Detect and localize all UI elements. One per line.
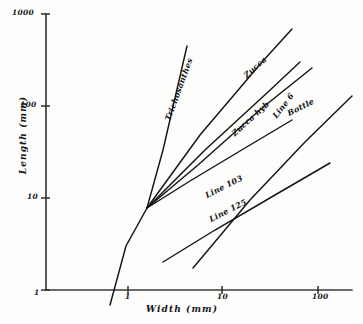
line-line125 <box>163 163 330 262</box>
y-tick-label-1: 1 <box>34 288 40 297</box>
x-tick-label-100: 100 <box>312 292 329 301</box>
x-tick-label-1: 1 <box>125 292 131 301</box>
y-tick-label-1000: 1000 <box>12 8 34 17</box>
y-axis-title: Length (mm) <box>18 96 28 174</box>
axis-lines <box>46 14 352 290</box>
x-tick-label-10: 10 <box>217 292 228 301</box>
y-tick-label-10: 10 <box>27 192 38 201</box>
line-bottle <box>193 96 352 268</box>
line-line103 <box>147 120 292 208</box>
plot-canvas <box>0 0 363 324</box>
chart-figure: 1000 100 10 1 1 10 100 Length (mm) Width… <box>0 0 363 324</box>
data-lines <box>110 29 352 305</box>
x-axis-title: Width (mm) <box>146 304 218 314</box>
